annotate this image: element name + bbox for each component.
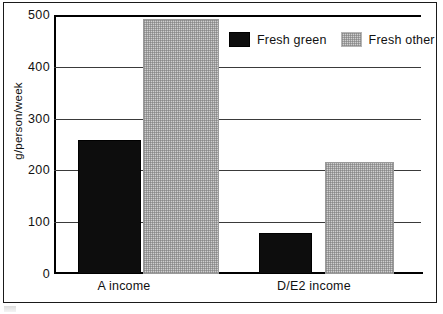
legend-entry-fresh-other: Fresh other [341,32,435,47]
y-axis-tick-labels: 500 400 300 200 100 0 [4,15,50,274]
bar-de2-income-fresh-green[interactable] [259,233,312,274]
legend-swatch-fresh-other-icon [341,32,362,47]
y-tick-200: 200 [6,164,50,177]
y-tick-500: 500 [6,9,50,22]
legend-swatch-fresh-green-icon [229,32,250,47]
gridline-500 [54,15,421,17]
figure-frame: g/person/week 500 400 300 200 100 0 A in… [3,2,437,303]
y-tick-400: 400 [6,61,50,74]
scan-artifact [4,306,16,312]
bar-a-income-fresh-other[interactable] [143,19,219,274]
y-tick-300: 300 [6,113,50,126]
legend-label-fresh-green: Fresh green [257,33,327,47]
legend-entry-fresh-green: Fresh green [229,32,327,47]
gridline-300 [54,119,421,120]
y-tick-100: 100 [6,216,50,229]
y-tick-0: 0 [6,268,50,281]
legend: Fresh green Fresh other [229,32,435,47]
x-tick-de2-income: D/E2 income [249,279,379,293]
x-tick-a-income: A income [64,279,184,293]
bar-de2-income-fresh-other[interactable] [325,162,394,274]
bar-a-income-fresh-green[interactable] [78,140,141,274]
gridline-400 [54,67,421,68]
plot-area [54,15,421,274]
legend-label-fresh-other: Fresh other [369,33,435,47]
